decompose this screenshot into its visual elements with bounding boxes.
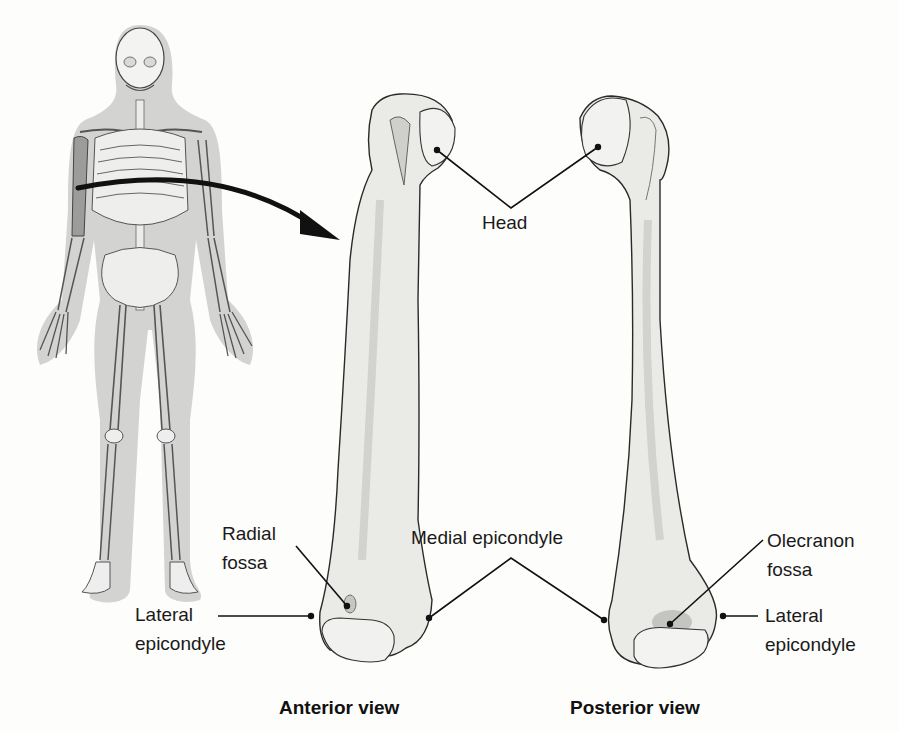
posterior-humerus bbox=[580, 96, 716, 668]
label-olecranon-fossa-line1: Olecranon bbox=[767, 530, 855, 552]
diagram-canvas: Head Radial fossa Lateral epicondyle Med… bbox=[0, 0, 899, 733]
label-lateral-epicondyle-left-line1: Lateral bbox=[135, 604, 193, 626]
label-radial-fossa-line2: fossa bbox=[222, 552, 267, 574]
label-lateral-epicondyle-right-line1: Lateral bbox=[765, 605, 823, 627]
label-lateral-epicondyle-right-line2: epicondyle bbox=[765, 634, 856, 656]
label-head: Head bbox=[482, 212, 527, 234]
caption-posterior-view: Posterior view bbox=[570, 697, 700, 719]
label-olecranon-fossa-line2: fossa bbox=[767, 559, 812, 581]
caption-anterior-view: Anterior view bbox=[279, 697, 399, 719]
label-radial-fossa-line1: Radial bbox=[222, 523, 276, 545]
skeleton-figure bbox=[37, 25, 253, 603]
label-medial-epicondyle: Medial epicondyle bbox=[411, 527, 563, 549]
anterior-humerus bbox=[320, 94, 455, 662]
label-lateral-epicondyle-left-line2: epicondyle bbox=[135, 633, 226, 655]
